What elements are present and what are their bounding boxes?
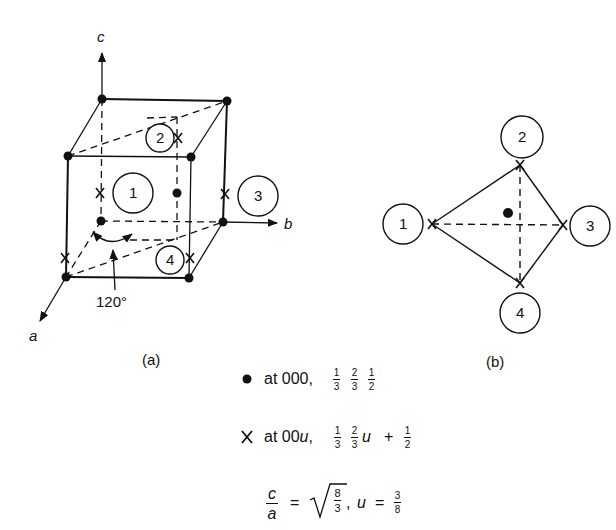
atom-dot (219, 218, 228, 227)
var-u-2: u (357, 494, 366, 512)
equals-sign-2: = (375, 494, 384, 512)
vertex-label-4: 4 (516, 304, 524, 321)
fraction: 13 (334, 425, 341, 450)
atom-dot (62, 273, 71, 282)
sqrt-fraction: 83 (334, 487, 341, 514)
x-vertex-3 (559, 220, 567, 230)
site-label-2: 2 (156, 129, 164, 146)
sqrt-sign (310, 484, 347, 517)
site-label-4: 4 (166, 251, 174, 268)
site-label-3: 3 (254, 187, 262, 204)
fraction: 12 (404, 425, 411, 450)
var-u: u (362, 428, 371, 446)
equals-sign: = (290, 494, 299, 512)
fraction: 23 (351, 425, 358, 450)
a-axis (40, 277, 66, 321)
comma: , (346, 494, 350, 512)
x-site-2 (174, 133, 182, 143)
u-fraction: 38 (394, 490, 401, 515)
atom-dot (98, 95, 107, 104)
legend-dot-icon (243, 375, 252, 384)
caption-b: (b) (486, 353, 504, 370)
vertex-label-2: 2 (518, 128, 526, 145)
legend-x-text: at 00u, (264, 428, 313, 446)
b-axis (223, 222, 277, 223)
angle-label: 120° (96, 293, 127, 310)
fraction: 13 (333, 367, 340, 392)
atom-dot (97, 217, 106, 226)
fraction: 12 (368, 367, 375, 392)
legend-dot-text: at 000, (264, 370, 313, 388)
caption-a: (a) (142, 351, 160, 368)
atom-dot (223, 97, 232, 106)
atom-dot (185, 274, 194, 283)
c-over-a: ca (266, 485, 278, 522)
fraction: 23 (351, 367, 358, 392)
atom-dot (173, 189, 182, 198)
atom-dot (187, 153, 196, 162)
x-site-edge (61, 253, 69, 263)
center-atom-dot (503, 208, 513, 218)
site-label-1: 1 (129, 184, 137, 201)
axis-label-b: b (284, 215, 292, 232)
vertex-label-3: 3 (586, 217, 594, 234)
x-site-1 (96, 188, 104, 198)
unit-cell-diagram (0, 0, 616, 530)
atom-dot (64, 152, 73, 161)
vertex-label-1: 1 (399, 215, 407, 232)
plus-sign: + (384, 428, 393, 446)
legend-x-icon (242, 431, 252, 443)
axis-label-c: c (97, 28, 105, 45)
axis-label-a: a (29, 327, 37, 344)
